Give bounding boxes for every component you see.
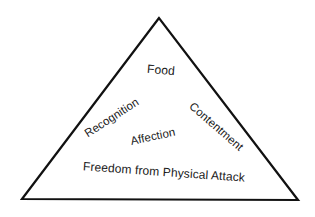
triangle-outline	[0, 0, 315, 217]
label-food: Food	[147, 63, 176, 77]
triangle-diagram: Food Recognition Contentment Affection F…	[0, 0, 315, 217]
